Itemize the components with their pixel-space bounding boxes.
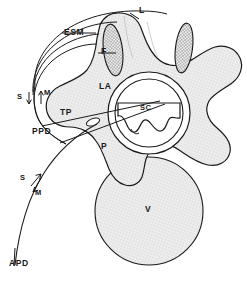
figure-canvas: ESM F L LA TP PPD P SC V APD S M S M bbox=[0, 0, 247, 282]
label-v: V bbox=[145, 205, 151, 214]
label-m-upper: M bbox=[44, 89, 51, 97]
label-ppd: PPD bbox=[32, 127, 51, 136]
label-l: L bbox=[139, 6, 145, 15]
label-tp: TP bbox=[60, 108, 72, 117]
label-p: P bbox=[101, 142, 107, 151]
label-la: LA bbox=[99, 82, 112, 91]
label-sc: SC bbox=[140, 104, 151, 112]
label-f: F bbox=[101, 47, 107, 56]
label-m-lower: M bbox=[35, 189, 42, 197]
label-apd: APD bbox=[9, 259, 29, 268]
apd-needle-track bbox=[15, 124, 97, 265]
label-s-upper: S bbox=[17, 93, 22, 101]
vertebra-diagram-svg bbox=[0, 0, 247, 282]
label-s-lower: S bbox=[20, 174, 25, 182]
label-esm: ESM bbox=[64, 28, 84, 37]
